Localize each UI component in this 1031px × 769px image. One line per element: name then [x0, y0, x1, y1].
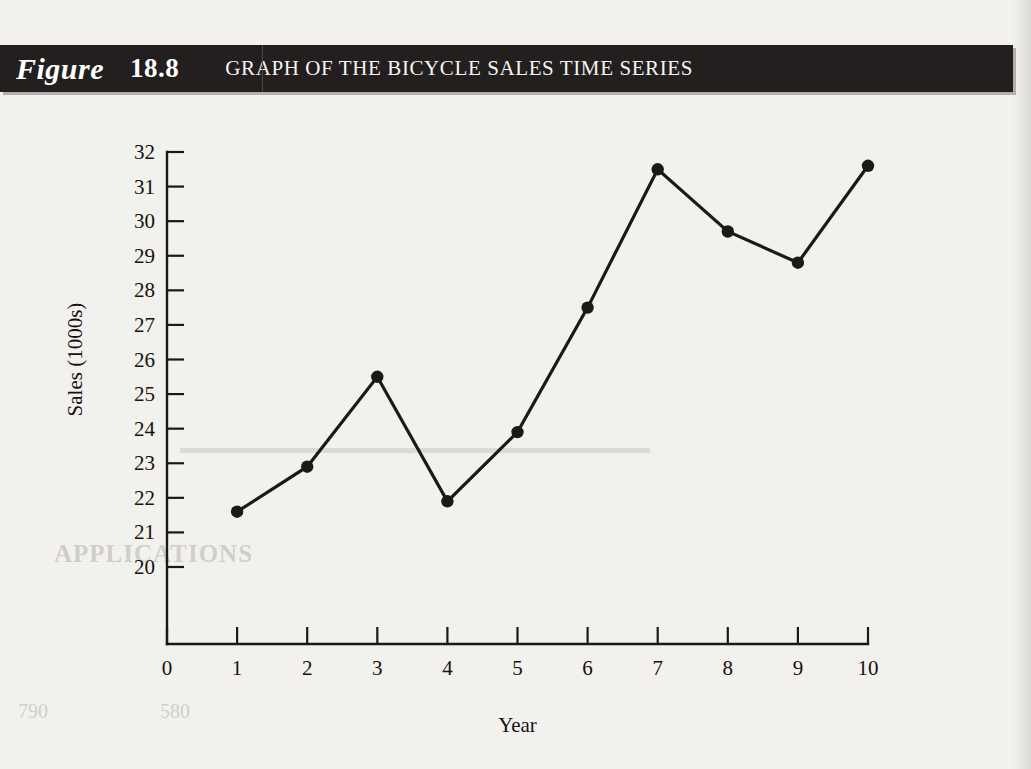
x-tick-label: 3	[372, 656, 383, 680]
line-chart: 20212223242526272829303132 012345678910 …	[0, 92, 1031, 769]
y-tick-label: 32	[134, 140, 155, 164]
figure-title: GRAPH OF THE BICYCLE SALES TIME SERIES	[225, 56, 693, 81]
data-point-marker	[652, 163, 664, 175]
data-point-marker	[511, 426, 523, 438]
data-point-marker	[862, 160, 874, 172]
figure-header-band: Figure 18.8 GRAPH OF THE BICYCLE SALES T…	[0, 45, 1013, 92]
x-tick-label: 10	[858, 656, 879, 680]
x-tick-label: 8	[723, 656, 734, 680]
data-point-marker	[371, 371, 383, 383]
y-tick-label: 23	[134, 451, 155, 475]
x-tick-label: 9	[793, 656, 804, 680]
x-tick-label: 4	[442, 656, 453, 680]
y-axis: 20212223242526272829303132	[134, 140, 184, 644]
y-tick-label: 24	[134, 417, 156, 441]
x-tick-label: 1	[232, 656, 243, 680]
x-tick-label: 7	[652, 656, 663, 680]
y-tick-label: 26	[134, 348, 155, 372]
y-tick-label: 31	[134, 175, 155, 199]
data-point-marker	[301, 461, 313, 473]
x-tick-label: 0	[162, 656, 173, 680]
data-point-marker	[581, 301, 593, 313]
data-point-marker	[722, 225, 734, 237]
x-axis: 012345678910	[162, 627, 879, 680]
y-tick-label: 29	[134, 244, 155, 268]
x-tick-label: 6	[582, 656, 593, 680]
data-point-marker	[792, 257, 804, 269]
figure-number: 18.8	[130, 53, 179, 84]
x-tick-label: 2	[302, 656, 313, 680]
y-tick-label: 27	[134, 313, 155, 337]
y-tick-label: 21	[134, 520, 155, 544]
data-point-marker	[441, 495, 453, 507]
chart-container: 20212223242526272829303132 012345678910 …	[0, 92, 1031, 769]
x-axis-title: Year	[498, 713, 537, 737]
data-point-marker	[231, 506, 243, 518]
y-tick-label: 28	[134, 278, 155, 302]
y-tick-label: 22	[134, 486, 155, 510]
x-tick-label: 5	[512, 656, 523, 680]
y-tick-label: 20	[134, 555, 155, 579]
y-tick-label: 25	[134, 382, 155, 406]
y-axis-title: Sales (1000s)	[63, 303, 87, 417]
y-tick-label: 30	[134, 209, 155, 233]
data-series-bicycle-sales	[231, 160, 874, 518]
figure-label: Figure	[16, 52, 104, 86]
series-polyline	[237, 166, 868, 512]
